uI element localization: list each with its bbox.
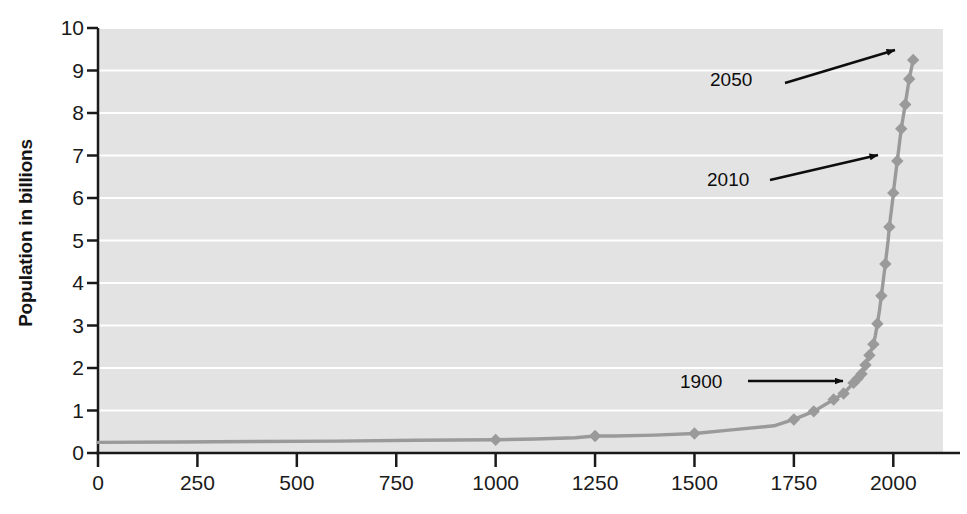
population-growth-chart: Population in billions 012345678910 0250… [0,0,967,514]
plot-area [0,0,967,514]
annotation-label-1900: 1900 [680,372,722,391]
annotation-label-2050: 2050 [710,70,752,89]
annotation-label-2010: 2010 [707,170,749,189]
